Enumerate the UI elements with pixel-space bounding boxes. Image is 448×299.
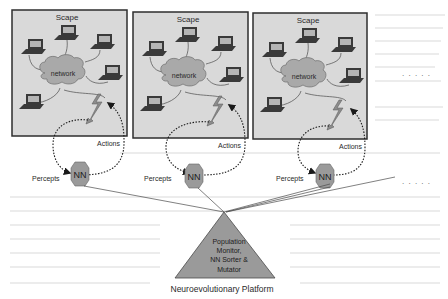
ellipsis-more-scapes: . . . . . <box>402 69 431 78</box>
scape-title: Scape <box>56 13 79 22</box>
nn-label: NN <box>188 172 201 182</box>
scape-group-2: Scape network Actions Percepts NN <box>133 12 248 188</box>
percepts-label: Percepts <box>144 175 172 183</box>
nn-label: NN <box>319 172 332 182</box>
cloud-label: network <box>51 70 76 77</box>
neuroevolutionary-platform: Population Monitor, NN Sorter & Mutator … <box>171 212 276 294</box>
ellipsis-more-nns: . . . . . <box>402 177 431 186</box>
platform-line-1: Population <box>212 238 245 246</box>
scape-group-3: Scape network Actions Percepts NN <box>253 13 367 188</box>
percepts-label: Percepts <box>276 175 304 183</box>
platform-caption: Neuroevolutionary Platform <box>171 284 274 294</box>
actions-label: Actions <box>97 140 120 147</box>
platform-connections <box>84 177 395 212</box>
actions-label: Actions <box>218 142 241 149</box>
neuroevolution-diagram: Scape network Actions Percepts NN <box>0 0 448 299</box>
nn-node: NN <box>71 162 89 186</box>
nn-node: NN <box>185 164 203 188</box>
percepts-label: Percepts <box>32 175 60 183</box>
cloud-label: network <box>292 73 317 80</box>
platform-line-3: NN Sorter & <box>210 256 248 263</box>
scape-title: Scape <box>297 16 320 25</box>
actions-label: Actions <box>339 143 362 150</box>
nn-node: NN <box>316 164 334 188</box>
cloud-label: network <box>172 72 197 79</box>
platform-line-2: Monitor, <box>217 247 242 254</box>
nn-label: NN <box>74 170 87 180</box>
scape-title: Scape <box>177 15 200 24</box>
platform-line-4: Mutator <box>217 266 241 273</box>
scape-group-1: Scape network Actions Percepts NN <box>12 10 127 186</box>
